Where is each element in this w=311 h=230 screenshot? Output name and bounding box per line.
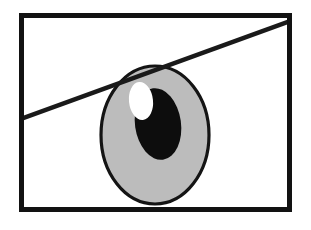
illustration-canvas — [0, 0, 311, 230]
eye-illustration — [0, 0, 311, 230]
